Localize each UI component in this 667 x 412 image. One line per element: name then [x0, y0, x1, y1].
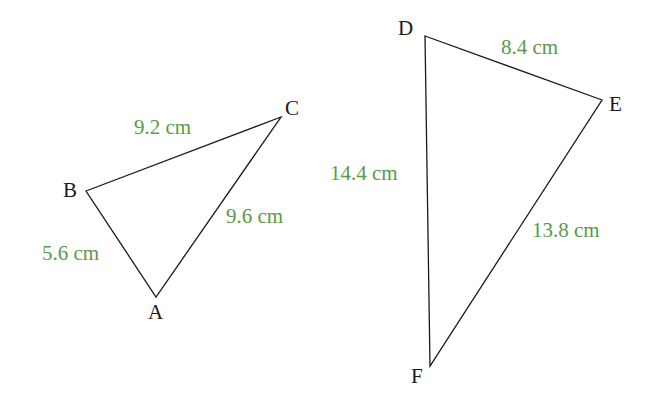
- side-de-length: 8.4 cm: [501, 37, 558, 58]
- vertex-label-e: E: [609, 94, 622, 115]
- vertex-label-a: A: [148, 302, 163, 323]
- side-ac-length: 9.6 cm: [226, 206, 283, 227]
- side-bc-length: 9.2 cm: [134, 117, 191, 138]
- side-ab-length: 5.6 cm: [42, 243, 99, 264]
- vertex-label-c: C: [285, 98, 299, 119]
- side-ef-length: 13.8 cm: [532, 220, 600, 241]
- vertex-label-f: F: [411, 366, 423, 387]
- vertex-label-b: B: [63, 180, 77, 201]
- side-df-length: 14.4 cm: [330, 163, 398, 184]
- triangles-drawing: [0, 0, 667, 412]
- similar-triangles-diagram: B C A 9.2 cm 9.6 cm 5.6 cm D E F 8.4 cm …: [0, 0, 667, 412]
- vertex-label-d: D: [398, 18, 413, 39]
- triangle-def: [425, 36, 602, 366]
